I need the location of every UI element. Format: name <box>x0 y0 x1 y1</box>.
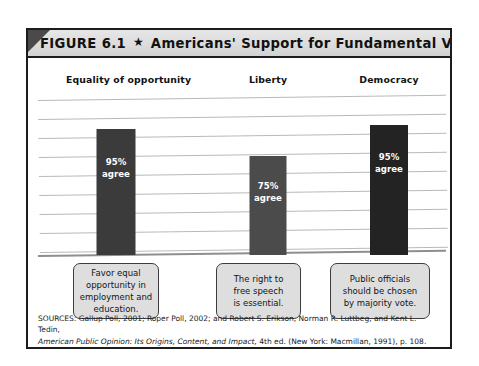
sources-line-2: American Public Opinion: Its Origins, Co… <box>38 336 440 347</box>
bar-label-equality: Equality of opportunity <box>66 74 166 85</box>
bar-equality: 95% agree <box>97 129 136 255</box>
bar-value-democracy: 95% agree <box>375 152 403 175</box>
figure-number: FIGURE 6.1 <box>40 36 126 51</box>
caption-text-liberty: The right to free speech is essential. <box>233 273 283 309</box>
sources-line-1: SOURCES: Gallup Poll, 2001; Roper Poll, … <box>38 313 440 336</box>
chart-plot-area: Equality of opportunity 95% agree Libert… <box>28 58 450 347</box>
sources-edition-info: 4th ed. (New York: Macmillan, 1991), p. … <box>257 337 426 346</box>
caption-line: The right to <box>233 273 283 285</box>
bar-liberty: 75% agree <box>250 156 287 255</box>
caption-line: employment and <box>80 291 152 303</box>
bar-group-equality: Equality of opportunity 95% agree <box>66 58 166 255</box>
bar-value-liberty: 75% agree <box>254 181 282 204</box>
bar-label-democracy: Democracy <box>339 74 439 85</box>
bar-value-pct-democracy: 95% <box>375 152 403 164</box>
bar-group-democracy: Democracy 95% agree <box>339 58 439 255</box>
figure-screenshot: FIGURE 6.1 ★ Americans' Support for Fund… <box>0 0 479 366</box>
star-icon: ★ <box>133 36 144 48</box>
caption-box-liberty: The right to free speech is essential. <box>216 263 301 319</box>
bar-value-equality: 95% agree <box>102 157 130 180</box>
caption-line: Favor equal <box>80 267 152 279</box>
caption-line: free speech <box>233 285 283 297</box>
bar-value-suffix-democracy: agree <box>375 164 403 176</box>
caption-text-democracy: Public officials should be chosen by maj… <box>343 273 418 309</box>
bar-value-suffix-liberty: agree <box>254 193 282 205</box>
caption-line: Public officials <box>343 273 418 285</box>
caption-box-equality: Favor equal opportunity in employment an… <box>73 263 159 319</box>
figure-title-text: Americans' Support for Fundamental Value… <box>151 36 450 51</box>
bar-value-pct-liberty: 75% <box>254 181 282 193</box>
bar-value-pct-equality: 95% <box>102 157 130 169</box>
bar-democracy: 95% agree <box>370 125 408 255</box>
figure-frame: FIGURE 6.1 ★ Americans' Support for Fund… <box>26 28 452 349</box>
sources-note: SOURCES: Gallup Poll, 2001; Roper Poll, … <box>38 313 440 347</box>
sources-book-title: American Public Opinion: Its Origins, Co… <box>38 337 257 346</box>
figure-title: FIGURE 6.1 ★ Americans' Support for Fund… <box>40 30 450 56</box>
caption-line: by majority vote. <box>343 297 418 309</box>
figure-title-bar: FIGURE 6.1 ★ Americans' Support for Fund… <box>28 30 450 58</box>
bar-group-liberty: Liberty 75% agree <box>218 58 318 255</box>
bar-value-suffix-equality: agree <box>102 169 130 181</box>
caption-box-democracy: Public officials should be chosen by maj… <box>330 263 430 319</box>
caption-text-equality: Favor equal opportunity in employment an… <box>80 267 152 315</box>
caption-line: should be chosen <box>343 285 418 297</box>
bar-label-liberty: Liberty <box>218 74 318 85</box>
caption-line: opportunity in <box>80 279 152 291</box>
caption-line: is essential. <box>233 297 283 309</box>
